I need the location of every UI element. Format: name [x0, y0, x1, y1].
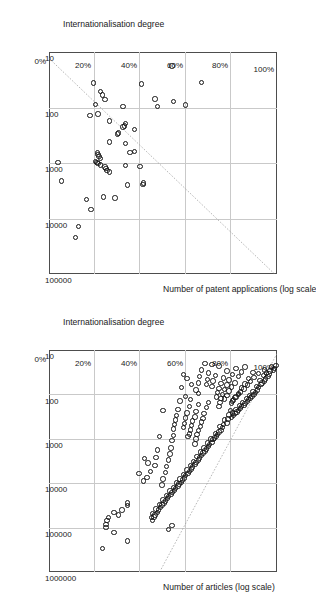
data-point: [209, 384, 214, 389]
data-point: [152, 96, 157, 101]
data-point: [123, 163, 128, 168]
data-point: [159, 482, 164, 487]
data-point: [206, 370, 211, 375]
trendline: [49, 52, 277, 274]
y-axis-title: Internationalisation degree: [63, 318, 164, 327]
y-tick-label: 40%: [121, 360, 137, 368]
data-point: [91, 80, 96, 85]
data-point: [177, 398, 182, 403]
x-tick-label: 10: [45, 353, 54, 361]
data-point: [184, 376, 189, 381]
data-point: [59, 178, 64, 183]
chart-patent-applications: 10100100010000100000 0%20%40%60%80%100% …: [0, 0, 316, 298]
y-tick-label: 100%: [253, 364, 273, 372]
data-point: [140, 182, 145, 187]
data-point: [153, 455, 158, 460]
data-point: [166, 457, 171, 462]
x-tick-label: 1000000: [45, 575, 76, 583]
y-tick-label: 100%: [253, 66, 273, 74]
data-point: [73, 235, 78, 240]
x-tick-label: 100: [45, 398, 58, 406]
data-point: [217, 424, 222, 429]
data-point: [103, 525, 108, 530]
data-point: [95, 150, 100, 155]
data-point: [160, 476, 165, 481]
data-point: [120, 104, 125, 109]
data-point: [95, 111, 100, 116]
data-point: [210, 378, 215, 383]
data-point: [136, 471, 141, 476]
plot-area-articles: [49, 350, 277, 572]
x-tick-label: 100: [45, 111, 58, 119]
data-point: [167, 451, 172, 456]
data-point: [175, 407, 180, 412]
data-point: [115, 131, 120, 136]
data-point: [202, 361, 207, 366]
data-point: [87, 113, 92, 118]
data-point: [145, 460, 150, 465]
data-point: [120, 124, 125, 129]
figure-root: 10100100010000100000 0%20%40%60%80%100% …: [0, 0, 316, 596]
data-point: [168, 445, 173, 450]
data-point: [195, 454, 200, 459]
x-tick-label: 10000: [45, 222, 67, 230]
data-point: [107, 118, 112, 123]
x-axis-title: Number of articles (log scale): [163, 583, 275, 592]
x-tick-label: 1000: [45, 166, 63, 174]
data-point: [125, 538, 130, 543]
y-tick-label: 20%: [75, 360, 91, 368]
data-point: [192, 441, 197, 446]
x-tick-label: 100000: [45, 531, 72, 539]
chart-articles-rotated-content: 101001000100001000001000000 0%20%40%60%8…: [0, 298, 298, 596]
data-point: [160, 408, 165, 413]
y-tick-label: 40%: [121, 62, 137, 70]
y-axis-title: Internationalisation degree: [63, 20, 164, 29]
data-point: [152, 463, 157, 468]
data-point: [112, 195, 117, 200]
data-point: [155, 104, 160, 109]
x-tick-label: 1000: [45, 442, 63, 450]
data-point: [171, 426, 176, 431]
data-point: [127, 150, 132, 155]
data-point: [155, 447, 160, 452]
data-point: [123, 141, 128, 146]
data-point: [138, 164, 143, 169]
data-point: [111, 510, 116, 515]
y-tick-label: 60%: [167, 360, 183, 368]
x-tick-label: 10000: [45, 486, 67, 494]
plot-area-patents: [49, 52, 277, 274]
data-point: [193, 387, 198, 392]
data-point: [224, 368, 229, 373]
data-point: [196, 380, 201, 385]
y-tick-label: 80%: [212, 62, 228, 70]
data-point: [139, 81, 144, 86]
data-point: [111, 530, 116, 535]
chart-patents-rotated-content: 10100100010000100000 0%20%40%60%80%100% …: [0, 0, 298, 298]
y-tick-label: 20%: [75, 62, 91, 70]
x-tick-label: 100000: [45, 277, 72, 285]
y-tick-label: 0%: [34, 58, 46, 66]
data-point: [199, 367, 204, 372]
data-point: [107, 139, 112, 144]
y-tick-label: 0%: [34, 356, 46, 364]
y-tick-label: 60%: [167, 62, 183, 70]
data-point: [216, 404, 221, 409]
data-point: [214, 394, 219, 399]
x-tick-label: 10: [45, 55, 54, 63]
y-tick-label: 80%: [212, 360, 228, 368]
data-point: [233, 366, 238, 371]
x-axis-title: Number of patent applications (log scale…: [163, 285, 316, 294]
data-point: [88, 207, 93, 212]
data-point: [257, 378, 262, 383]
data-point: [230, 398, 235, 403]
chart-articles: 101001000100001000001000000 0%20%40%60%8…: [0, 298, 316, 596]
